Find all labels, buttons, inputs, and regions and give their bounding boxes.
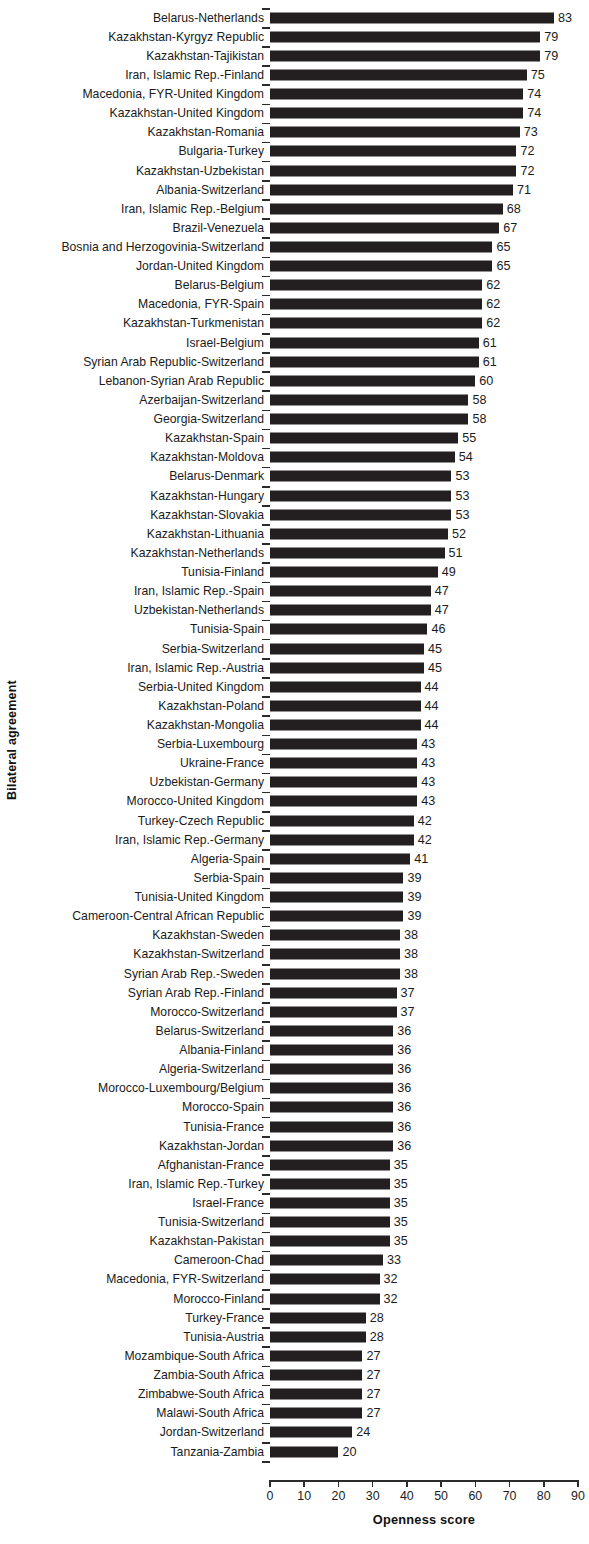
- bar-value-label: 27: [366, 1369, 380, 1382]
- bar-value-label: 47: [435, 604, 449, 617]
- category-label: Serbia-United Kingdom: [138, 680, 264, 693]
- category-label: Macedonia, FYR-Spain: [138, 298, 264, 311]
- bar-row: Morocco-Switzerland37: [0, 1002, 589, 1021]
- bar: [270, 528, 448, 539]
- bar-value-label: 43: [421, 776, 435, 789]
- bar: [270, 146, 516, 157]
- category-label: Algeria-Switzerland: [159, 1063, 264, 1076]
- bar-row: Kazakhstan-Spain55: [0, 429, 589, 448]
- bar-value-label: 38: [404, 929, 418, 942]
- category-label: Cameroon-Central African Republic: [72, 910, 264, 923]
- bar-row: Kazakhstan-Uzbekistan72: [0, 161, 589, 180]
- bar: [270, 337, 479, 348]
- bar: [270, 1197, 390, 1208]
- bar: [270, 414, 468, 425]
- bar: [270, 834, 414, 845]
- bar: [270, 949, 400, 960]
- bar-row: Tunisia-Spain46: [0, 620, 589, 639]
- bar-value-label: 27: [366, 1349, 380, 1362]
- category-label: Kazakhstan-Lithuania: [147, 527, 264, 540]
- bar-value-label: 43: [421, 757, 435, 770]
- bar: [270, 739, 417, 750]
- bar: [270, 509, 451, 520]
- bar: [270, 1140, 393, 1151]
- bar: [270, 968, 400, 979]
- category-label: Mozambique-South Africa: [124, 1349, 264, 1362]
- bar-value-label: 39: [407, 910, 421, 923]
- bar-value-label: 32: [384, 1292, 398, 1305]
- bar-row: Tunisia-Switzerland35: [0, 1213, 589, 1232]
- bar-value-label: 35: [394, 1177, 408, 1190]
- category-label: Zambia-South Africa: [154, 1369, 264, 1382]
- bar-row: Kazakhstan-Switzerland38: [0, 945, 589, 964]
- bar: [270, 222, 499, 233]
- bar-row: Cameroon-Chad33: [0, 1251, 589, 1270]
- category-label: Serbia-Spain: [194, 871, 264, 884]
- bar: [270, 892, 403, 903]
- x-axis-tick: [577, 1480, 579, 1487]
- bar-row: Kazakhstan-Romania73: [0, 123, 589, 142]
- bar-value-label: 20: [342, 1445, 356, 1458]
- category-label: Kazakhstan-Hungary: [150, 489, 264, 502]
- bar-row: Turkey-Czech Republic42: [0, 811, 589, 830]
- category-label: Kazakhstan-Tajikistan: [146, 49, 264, 62]
- bar-value-label: 41: [414, 852, 428, 865]
- bar-row: Afghanistan-France35: [0, 1155, 589, 1174]
- bar-value-label: 49: [442, 566, 456, 579]
- bar-row: Kazakhstan-Jordan36: [0, 1136, 589, 1155]
- bar: [270, 1274, 380, 1285]
- category-label: Turkey-France: [185, 1311, 264, 1324]
- bar: [270, 930, 400, 941]
- bar-row: Belarus-Belgium62: [0, 276, 589, 295]
- category-label: Afghanistan-France: [158, 1158, 264, 1171]
- bar-row: Belarus-Denmark53: [0, 467, 589, 486]
- bar: [270, 127, 520, 138]
- bar: [270, 452, 455, 463]
- bar-value-label: 24: [356, 1426, 370, 1439]
- bar-value-label: 42: [418, 833, 432, 846]
- category-label: Iran, Islamic Rep.-Spain: [134, 585, 264, 598]
- bar-row: Georgia-Switzerland58: [0, 410, 589, 429]
- category-label: Israel-Belgium: [186, 336, 264, 349]
- x-axis-line: [270, 1480, 578, 1482]
- category-label: Azerbaijan-Switzerland: [139, 393, 264, 406]
- bar: [270, 605, 431, 616]
- bar-value-label: 28: [370, 1311, 384, 1324]
- x-axis-tick-label: 80: [537, 1489, 551, 1503]
- bar: [270, 375, 475, 386]
- bar: [270, 911, 403, 922]
- x-axis-tick-label: 10: [297, 1489, 311, 1503]
- bar-value-label: 61: [483, 336, 497, 349]
- x-axis-tick-label: 40: [400, 1489, 414, 1503]
- x-axis-tick: [440, 1480, 442, 1487]
- bar-value-label: 73: [524, 126, 538, 139]
- bar-row: Iran, Islamic Rep.-Spain47: [0, 582, 589, 601]
- bar-row: Kazakhstan-Poland44: [0, 696, 589, 715]
- bar-row: Kazakhstan-United Kingdom74: [0, 104, 589, 123]
- bar-row: Jordan-United Kingdom65: [0, 257, 589, 276]
- bar-row: Albania-Switzerland71: [0, 180, 589, 199]
- bar: [270, 69, 527, 80]
- category-label: Albania-Switzerland: [156, 183, 264, 196]
- category-label: Macedonia, FYR-United Kingdom: [82, 88, 264, 101]
- bar-value-label: 79: [544, 49, 558, 62]
- bar-value-label: 74: [527, 88, 541, 101]
- bar-value-label: 74: [527, 107, 541, 120]
- x-axis-title: Openness score: [270, 1512, 578, 1527]
- bar-value-label: 33: [387, 1254, 401, 1267]
- bar-value-label: 55: [462, 432, 476, 445]
- bar-row: Iran, Islamic Rep.-Belgium68: [0, 199, 589, 218]
- bar-value-label: 42: [418, 814, 432, 827]
- bar-value-label: 38: [404, 948, 418, 961]
- bar-value-label: 46: [431, 623, 445, 636]
- category-label: Tunisia-United Kingdom: [134, 891, 264, 904]
- bar: [270, 108, 523, 119]
- bar-row: Azerbaijan-Switzerland58: [0, 390, 589, 409]
- bar-row: Bulgaria-Turkey72: [0, 142, 589, 161]
- bar-row: Kazakhstan-Mongolia44: [0, 715, 589, 734]
- bar: [270, 184, 513, 195]
- bar-row: Kazakhstan-Hungary53: [0, 486, 589, 505]
- bar-value-label: 72: [520, 145, 534, 158]
- category-label: Uzbekistan-Germany: [150, 776, 264, 789]
- category-label: Algeria-Spain: [191, 852, 264, 865]
